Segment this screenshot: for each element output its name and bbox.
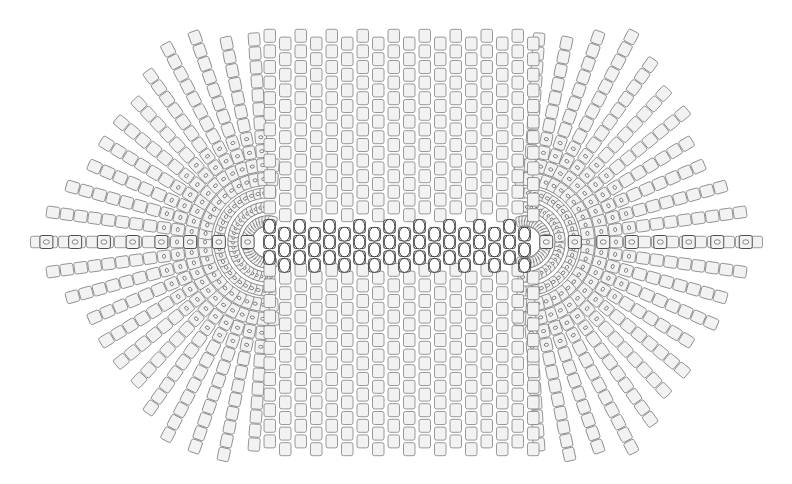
- band-tile: [489, 227, 501, 241]
- band-tile: [339, 243, 351, 257]
- grid-tile: [450, 435, 462, 448]
- tile-body: [481, 373, 493, 386]
- grid-tile: [295, 373, 307, 386]
- grid-tile: [466, 334, 478, 347]
- tile-body: [250, 410, 262, 424]
- grid-tile: [419, 435, 431, 448]
- tile-body: [311, 427, 323, 440]
- grid-tile: [264, 185, 276, 198]
- grid-tile: [481, 154, 493, 167]
- tile-body: [497, 349, 509, 362]
- tile-body: [252, 88, 264, 102]
- tile-inner-mark: [544, 137, 549, 141]
- grid-tile: [497, 68, 509, 81]
- tile-body: [388, 263, 400, 276]
- grid-tile: [497, 84, 509, 97]
- tile-body: [342, 100, 354, 113]
- tile-body: [225, 406, 239, 421]
- tile-body: [295, 341, 307, 354]
- grid-tile: [357, 373, 369, 386]
- tile-body: [450, 326, 462, 339]
- fan-tile: [171, 248, 185, 261]
- grid-tile: [419, 201, 431, 214]
- tile-body: [528, 365, 540, 378]
- fan-tile: [228, 392, 242, 407]
- tile-body: [295, 310, 307, 323]
- tile-body: [373, 271, 385, 284]
- tile-body: [404, 412, 416, 425]
- grid-tile: [512, 154, 524, 167]
- tile-body: [551, 77, 565, 92]
- grid-tile: [528, 162, 540, 175]
- band-ellipse: [279, 258, 290, 272]
- tile-body: [357, 201, 369, 214]
- grid-tile: [388, 201, 400, 214]
- grid-tile: [295, 45, 307, 58]
- grid-tile: [497, 318, 509, 331]
- tile-body: [264, 263, 276, 276]
- grid-tile: [280, 209, 292, 222]
- grid-tile: [295, 357, 307, 370]
- grid-tile: [404, 209, 416, 222]
- grid-tile: [435, 443, 447, 456]
- grid-tile: [481, 201, 493, 214]
- spine-tile: [597, 236, 610, 249]
- tile-body: [551, 392, 565, 407]
- band-ellipse: [309, 227, 320, 241]
- tile-body: [663, 255, 677, 268]
- tile-inner-mark: [613, 252, 617, 257]
- grid-tile: [497, 271, 509, 284]
- grid-tile: [280, 115, 292, 128]
- tile-body: [497, 380, 509, 393]
- tile-body: [466, 349, 478, 362]
- tile-body: [497, 115, 509, 128]
- grid-tile: [295, 154, 307, 167]
- grid-tile: [357, 154, 369, 167]
- tile-body: [264, 435, 276, 448]
- band-ellipse: [504, 251, 515, 265]
- fan-tile: [143, 252, 157, 265]
- band-ellipse: [369, 258, 380, 272]
- grid-tile: [497, 412, 509, 425]
- grid-tile: [311, 162, 323, 175]
- tile-body: [404, 365, 416, 378]
- band-ellipse: [399, 243, 410, 257]
- grid-tile: [450, 185, 462, 198]
- grid-tile: [264, 341, 276, 354]
- tile-body: [357, 295, 369, 308]
- grid-tile: [404, 146, 416, 159]
- band-tile: [339, 227, 351, 241]
- fan-tile: [545, 104, 559, 119]
- tile-body: [512, 92, 524, 105]
- tile-body: [435, 68, 447, 81]
- tile-body: [234, 104, 248, 119]
- band-tile: [384, 219, 396, 233]
- grid-tile: [404, 178, 416, 191]
- fan-tile: [143, 219, 157, 232]
- tile-inner-mark: [204, 248, 208, 253]
- fan-tile: [554, 406, 568, 421]
- fan-tile: [539, 337, 553, 352]
- tile-body: [388, 357, 400, 370]
- tile-body: [357, 139, 369, 152]
- tile-body: [512, 123, 524, 136]
- grid-tile: [497, 131, 509, 144]
- grid-tile: [466, 302, 478, 315]
- tile-body: [326, 419, 338, 432]
- tile-body: [404, 380, 416, 393]
- tile-body: [512, 435, 524, 448]
- tile-body: [388, 61, 400, 74]
- band-tile: [399, 258, 411, 272]
- grid-tile: [280, 53, 292, 66]
- grid-tile: [342, 146, 354, 159]
- tile-body: [223, 49, 237, 64]
- tile-body: [419, 123, 431, 136]
- band-ellipse: [489, 243, 500, 257]
- tile-body: [373, 84, 385, 97]
- tile-body: [481, 45, 493, 58]
- grid-tile: [373, 380, 385, 393]
- tile-body: [248, 33, 260, 47]
- tile-body: [435, 334, 447, 347]
- tile-body: [326, 45, 338, 58]
- tile-body: [559, 433, 573, 448]
